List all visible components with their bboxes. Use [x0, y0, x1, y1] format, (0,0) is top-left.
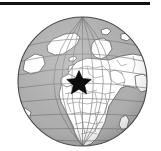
horizontal-rule [0, 2, 150, 5]
globe-locator-figure [0, 0, 161, 151]
globe-svg [17, 16, 148, 147]
globe-graphic [17, 16, 148, 147]
